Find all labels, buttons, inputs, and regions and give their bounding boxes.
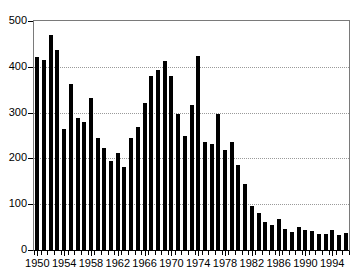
x-tick-mark-47 [349, 251, 350, 255]
bar-1957 [82, 122, 86, 250]
bar-1983 [257, 213, 261, 250]
x-tick-mark-22 [181, 251, 182, 255]
bar-1965 [136, 127, 140, 250]
x-tick-label-1990: 1990 [293, 257, 317, 269]
x-tick-mark-15 [135, 251, 136, 255]
y-tick-mark-300 [28, 113, 33, 114]
y-tick-label-0: 0 [21, 244, 27, 255]
bar-1966 [143, 103, 147, 250]
bar-1988 [290, 232, 294, 250]
x-tick-mark-33 [255, 251, 256, 255]
bar-1985 [270, 225, 274, 250]
bar-1972 [183, 136, 187, 251]
y-tick-label-500: 500 [9, 15, 27, 26]
bar-1952 [49, 35, 53, 250]
x-tick-mark-12 [114, 251, 115, 255]
x-tick-mark-39 [295, 251, 296, 255]
x-tick-mark-23 [188, 251, 189, 255]
x-tick-mark-major-1950 [37, 251, 38, 256]
x-tick-mark-24 [195, 251, 196, 255]
bar-1982 [250, 206, 254, 250]
x-tick-mark-4 [61, 251, 62, 255]
bars-layer [34, 21, 349, 250]
bar-1995 [337, 235, 341, 250]
x-tick-mark-10 [101, 251, 102, 255]
x-tick-label-1970: 1970 [159, 257, 183, 269]
x-tick-label-1974: 1974 [186, 257, 210, 269]
x-tick-mark-14 [128, 251, 129, 255]
x-tick-mark-16 [141, 251, 142, 255]
bar-1996 [344, 233, 348, 250]
x-tick-mark-major-1982 [252, 251, 253, 256]
x-tick-mark-42 [315, 251, 316, 255]
bar-1977 [216, 114, 220, 250]
bar-1989 [297, 227, 301, 250]
x-tick-label-1958: 1958 [79, 257, 103, 269]
bar-1987 [283, 229, 287, 250]
bar-1974 [196, 56, 200, 250]
y-tick-label-300: 300 [9, 107, 27, 118]
x-tick-mark-25 [202, 251, 203, 255]
bar-1980 [236, 165, 240, 250]
bar-1979 [230, 142, 234, 250]
y-tick-mark-200 [28, 158, 33, 159]
x-tick-mark-28 [222, 251, 223, 255]
bar-chart: 0100200300400500 19501954195819621966197… [0, 0, 356, 279]
x-tick-mark-13 [121, 251, 122, 255]
y-tick-label-400: 400 [9, 61, 27, 72]
x-tick-mark-41 [309, 251, 310, 255]
bar-1951 [42, 60, 46, 250]
x-tick-mark-40 [302, 251, 303, 255]
x-tick-mark-44 [329, 251, 330, 255]
x-tick-mark-26 [208, 251, 209, 255]
bar-1971 [176, 114, 180, 250]
bar-1992 [317, 234, 321, 250]
bar-1961 [109, 161, 113, 250]
x-tick-mark-46 [342, 251, 343, 255]
bar-1968 [156, 70, 160, 250]
bar-1978 [223, 150, 227, 250]
x-tick-mark-major-1962 [118, 251, 119, 256]
x-tick-label-1986: 1986 [266, 257, 290, 269]
x-tick-mark-18 [155, 251, 156, 255]
bar-1954 [62, 129, 66, 250]
x-tick-mark-27 [215, 251, 216, 255]
bar-1953 [55, 50, 59, 250]
x-tick-mark-major-1966 [145, 251, 146, 256]
x-tick-mark-1 [41, 251, 42, 255]
x-tick-mark-5 [68, 251, 69, 255]
x-tick-mark-major-1958 [91, 251, 92, 256]
bar-1956 [76, 118, 80, 250]
x-tick-label-1966: 1966 [132, 257, 156, 269]
x-tick-mark-45 [336, 251, 337, 255]
bar-1955 [69, 84, 73, 250]
x-tick-mark-30 [235, 251, 236, 255]
y-tick-mark-400 [28, 67, 33, 68]
x-tick-mark-2 [47, 251, 48, 255]
x-tick-mark-36 [275, 251, 276, 255]
y-tick-label-100: 100 [9, 198, 27, 209]
x-tick-mark-31 [242, 251, 243, 255]
plot-area [33, 20, 350, 251]
bar-1959 [96, 138, 100, 250]
bar-1990 [303, 230, 307, 250]
x-tick-label-1994: 1994 [320, 257, 344, 269]
x-tick-mark-35 [269, 251, 270, 255]
bar-1962 [116, 153, 120, 250]
x-tick-mark-6 [74, 251, 75, 255]
x-tick-mark-major-1954 [64, 251, 65, 256]
x-tick-mark-19 [161, 251, 162, 255]
bar-1976 [210, 144, 214, 250]
bar-1950 [35, 57, 39, 250]
x-tick-mark-37 [282, 251, 283, 255]
y-tick-mark-100 [28, 204, 33, 205]
x-tick-mark-0 [34, 251, 35, 255]
x-tick-label-1962: 1962 [106, 257, 130, 269]
x-tick-mark-34 [262, 251, 263, 255]
x-tick-mark-9 [94, 251, 95, 255]
x-tick-label-1950: 1950 [25, 257, 49, 269]
bar-1993 [324, 234, 328, 250]
x-tick-label-1982: 1982 [240, 257, 264, 269]
x-tick-mark-38 [289, 251, 290, 255]
x-tick-mark-17 [148, 251, 149, 255]
